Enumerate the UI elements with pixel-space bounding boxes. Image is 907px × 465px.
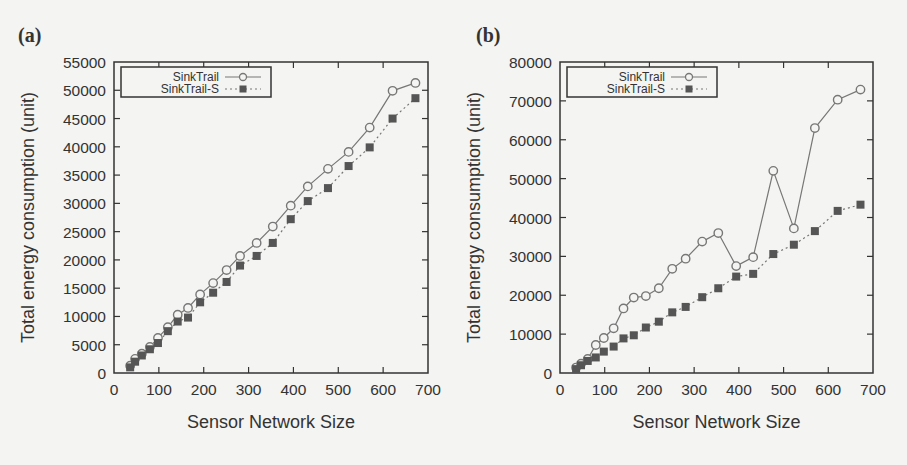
x-tick-label: 200 bbox=[191, 381, 217, 398]
data-point-square bbox=[184, 314, 192, 322]
data-point-square bbox=[790, 241, 798, 249]
data-point-square bbox=[324, 184, 332, 192]
x-tick-label: 200 bbox=[636, 381, 662, 398]
x-tick-label: 100 bbox=[592, 381, 618, 398]
y-tick-label: 20000 bbox=[509, 287, 552, 304]
data-point-square bbox=[600, 348, 608, 356]
chart-panel-b: (b)0100200300400500600700010000200003000… bbox=[450, 0, 907, 465]
legend: SinkTrailSinkTrail-S bbox=[567, 67, 717, 97]
data-point-circle bbox=[252, 239, 260, 247]
y-tick-label: 5000 bbox=[72, 337, 107, 354]
x-tick-label: 700 bbox=[860, 381, 886, 398]
data-point-circle bbox=[411, 79, 419, 87]
data-point-circle bbox=[269, 222, 277, 230]
data-point-circle bbox=[714, 229, 722, 237]
data-point-circle bbox=[344, 148, 352, 156]
x-tick-label: 500 bbox=[771, 381, 797, 398]
data-point-square bbox=[411, 94, 419, 102]
panel-label: (a) bbox=[18, 24, 41, 47]
data-point-circle bbox=[222, 266, 230, 274]
data-point-square bbox=[811, 227, 819, 235]
data-point-circle bbox=[790, 224, 798, 232]
data-point-square bbox=[138, 351, 146, 359]
data-point-square bbox=[196, 298, 204, 306]
data-point-square bbox=[223, 278, 231, 286]
data-point-circle bbox=[236, 252, 244, 260]
y-tick-label: 50000 bbox=[509, 171, 552, 188]
data-point-square bbox=[345, 162, 353, 170]
x-tick-label: 0 bbox=[556, 381, 565, 398]
y-tick-label: 60000 bbox=[509, 132, 552, 149]
data-point-square bbox=[655, 318, 663, 326]
y-tick-label: 50000 bbox=[63, 82, 106, 99]
data-point-circle bbox=[600, 334, 608, 342]
data-point-circle bbox=[184, 304, 192, 312]
data-point-square bbox=[732, 273, 740, 281]
data-point-circle bbox=[304, 182, 312, 190]
data-point-circle bbox=[833, 96, 841, 104]
data-point-circle bbox=[642, 292, 650, 300]
data-point-square bbox=[769, 250, 777, 258]
legend-circle-icon bbox=[686, 74, 693, 81]
data-point-circle bbox=[619, 304, 627, 312]
data-point-square bbox=[668, 308, 676, 316]
data-point-square bbox=[856, 201, 864, 209]
x-tick-label: 600 bbox=[815, 381, 841, 398]
y-tick-label: 0 bbox=[543, 365, 552, 382]
y-tick-label: 45000 bbox=[63, 111, 106, 128]
x-axis-label: Sensor Network Size bbox=[632, 412, 800, 432]
data-point-circle bbox=[630, 293, 638, 301]
data-point-square bbox=[610, 343, 618, 351]
y-tick-label: 10000 bbox=[63, 308, 106, 325]
series-line-sinktrail-s bbox=[130, 98, 415, 367]
data-point-circle bbox=[209, 279, 217, 287]
x-tick-label: 400 bbox=[726, 381, 752, 398]
data-point-circle bbox=[856, 85, 864, 93]
data-point-square bbox=[642, 324, 650, 332]
data-point-square bbox=[164, 327, 172, 335]
data-point-square bbox=[146, 345, 154, 353]
data-point-square bbox=[749, 270, 757, 278]
data-point-circle bbox=[196, 290, 204, 298]
data-point-circle bbox=[668, 265, 676, 273]
x-tick-label: 400 bbox=[280, 381, 306, 398]
data-point-circle bbox=[287, 201, 295, 209]
legend: SinkTrailSinkTrail-S bbox=[121, 67, 271, 97]
data-point-square bbox=[714, 284, 722, 292]
data-point-circle bbox=[655, 284, 663, 292]
panel-label: (b) bbox=[476, 24, 500, 47]
data-point-circle bbox=[749, 253, 757, 261]
data-point-square bbox=[834, 207, 842, 215]
data-point-square bbox=[592, 353, 600, 361]
data-point-circle bbox=[388, 87, 396, 95]
data-point-square bbox=[366, 143, 374, 151]
x-tick-label: 300 bbox=[236, 381, 262, 398]
y-tick-label: 25000 bbox=[63, 224, 106, 241]
x-axis-label: Sensor Network Size bbox=[187, 412, 355, 432]
y-tick-label: 70000 bbox=[509, 93, 552, 110]
data-point-square bbox=[698, 293, 706, 301]
x-tick-label: 600 bbox=[370, 381, 396, 398]
data-point-square bbox=[154, 339, 162, 347]
data-point-square bbox=[174, 318, 182, 326]
x-tick-label: 0 bbox=[110, 381, 119, 398]
data-point-circle bbox=[324, 165, 332, 173]
data-point-square bbox=[584, 357, 592, 365]
data-point-circle bbox=[365, 123, 373, 131]
data-point-square bbox=[619, 334, 627, 342]
data-point-square bbox=[682, 303, 690, 311]
y-axis-label: Total energy consumption (unit) bbox=[464, 92, 484, 343]
data-point-circle bbox=[609, 324, 617, 332]
data-point-square bbox=[269, 239, 277, 247]
y-tick-label: 20000 bbox=[63, 252, 106, 269]
data-point-square bbox=[236, 262, 244, 270]
chart-b-canvas: (b)0100200300400500600700010000200003000… bbox=[450, 0, 907, 465]
y-tick-label: 40000 bbox=[509, 210, 552, 227]
chart-a-canvas: (a)0100200300400500600700050001000015000… bbox=[0, 0, 450, 465]
x-tick-label: 500 bbox=[325, 381, 351, 398]
data-point-square bbox=[209, 289, 217, 297]
legend-label: SinkTrail-S bbox=[161, 82, 219, 96]
y-tick-label: 40000 bbox=[63, 139, 106, 156]
x-tick-label: 100 bbox=[146, 381, 172, 398]
data-point-square bbox=[253, 252, 261, 260]
